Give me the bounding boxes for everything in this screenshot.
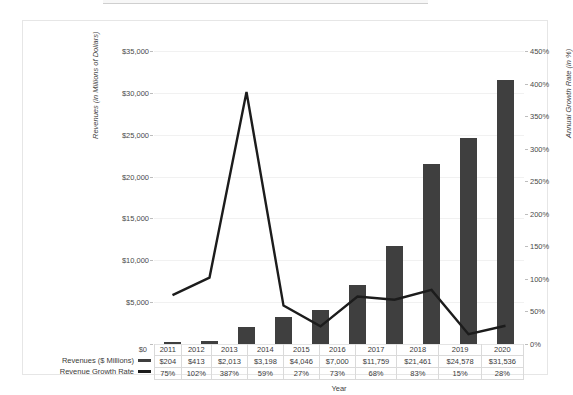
legend-item-revenues: Revenues ($ Millions) xyxy=(45,355,154,366)
table-cell-growth-rate: 68% xyxy=(355,368,396,380)
y-axis-right-tick-mark xyxy=(525,246,528,247)
y-axis-left-tick-label: $10,000 xyxy=(122,256,149,265)
table-cell-revenue: $31,536 xyxy=(481,356,523,368)
table-cell-year: 2011 xyxy=(155,344,182,356)
y-axis-left-tick-label: $25,000 xyxy=(122,130,149,139)
y-axis-right-tick-mark xyxy=(525,149,528,150)
legend-item-growth-rate: Revenue Growth Rate xyxy=(45,366,154,377)
y-axis-left-tick-mark xyxy=(150,177,153,178)
y-axis-left-tick-mark xyxy=(150,135,153,136)
table-cell-revenue: $7,000 xyxy=(319,356,355,368)
bar-swatch-icon xyxy=(138,359,151,363)
y-axis-right-tick-mark xyxy=(525,84,528,85)
y-axis-left-tick-label: $20,000 xyxy=(122,172,149,181)
y-axis-left-tick-mark xyxy=(150,302,153,303)
table-cell-year: 2017 xyxy=(355,344,396,356)
y-axis-right-tick-mark xyxy=(525,51,528,52)
table-cell-year: 2019 xyxy=(439,344,481,356)
table-cell-growth-rate: 75% xyxy=(155,368,182,380)
y-axis-left-title: Revenues (in Millions of Dollars) xyxy=(91,31,100,139)
table-cell-year: 2016 xyxy=(319,344,355,356)
table-cell-growth-rate: 59% xyxy=(247,368,283,380)
y-axis-left-tick-label: $15,000 xyxy=(122,214,149,223)
table-cell-revenue: $204 xyxy=(155,356,182,368)
table-cell-revenue: $24,578 xyxy=(439,356,481,368)
y-axis-right-tick-label: 150% xyxy=(530,242,549,251)
y-axis-right-tick-label: 300% xyxy=(530,144,549,153)
line-swatch-icon xyxy=(138,370,151,373)
y-axis-right-tick-label: 100% xyxy=(530,274,549,283)
y-axis-left-tick-mark xyxy=(150,51,153,52)
line-series-growth-rate xyxy=(154,51,524,344)
y-axis-left-tick-mark xyxy=(150,260,153,261)
table-row-years: 2011201220132014201520162017201820192020 xyxy=(155,344,524,356)
table-row-revenues: $204$413$2,013$3,198$4,046$7,000$11,759$… xyxy=(155,356,524,368)
table-cell-revenue: $21,461 xyxy=(397,356,439,368)
table-cell-growth-rate: 83% xyxy=(397,368,439,380)
table-cell-revenue: $413 xyxy=(181,356,211,368)
table-cell-growth-rate: 73% xyxy=(319,368,355,380)
table-cell-year: 2020 xyxy=(481,344,523,356)
chart-data-table: $0 Revenues ($ Millions) Revenue Growth … xyxy=(45,344,524,380)
chart-container: Revenues (in Millions of Dollars) Annual… xyxy=(22,20,548,375)
y-axis-left-tick-label: $5,000 xyxy=(126,298,149,307)
table-cell-year: 2014 xyxy=(247,344,283,356)
table-cell-growth-rate: 387% xyxy=(211,368,247,380)
table-cell-revenue: $11,759 xyxy=(355,356,396,368)
y-axis-right-tick-mark xyxy=(525,116,528,117)
table-cell-revenue: $2,013 xyxy=(211,356,247,368)
zero-axis-label-row: $0 xyxy=(45,344,154,355)
y-axis-right-title: Annual Growth Rate (in %) xyxy=(564,49,573,138)
legend: $0 Revenues ($ Millions) Revenue Growth … xyxy=(45,344,154,380)
y-axis-right-tick-mark xyxy=(525,214,528,215)
table-cell-revenue: $4,046 xyxy=(283,356,319,368)
y-axis-left-tick-label: $35,000 xyxy=(122,47,149,56)
y-axis-left-tick-mark xyxy=(150,218,153,219)
x-axis-title: Year xyxy=(154,384,524,393)
y-axis-right-tick-label: 400% xyxy=(530,79,549,88)
y-axis-right-tick-label: 450% xyxy=(530,47,549,56)
table-cell-growth-rate: 15% xyxy=(439,368,481,380)
y-axis-right-tick-mark xyxy=(525,344,528,345)
table-cell-growth-rate: 27% xyxy=(283,368,319,380)
table-cell-growth-rate: 28% xyxy=(481,368,523,380)
y-axis-right-tick-mark xyxy=(525,279,528,280)
y-axis-left-tick-label: $30,000 xyxy=(122,88,149,97)
legend-label-revenues: Revenues ($ Millions) xyxy=(62,356,134,365)
table-cell-year: 2015 xyxy=(283,344,319,356)
legend-label-growth-rate: Revenue Growth Rate xyxy=(60,367,134,376)
table-row-growth-rate: 75%102%387%59%27%73%68%83%15%28% xyxy=(155,368,524,380)
y-axis-right-tick-label: 200% xyxy=(530,209,549,218)
y-axis-right-tick-label: 350% xyxy=(530,112,549,121)
table-cell-year: 2012 xyxy=(181,344,211,356)
plot-area: $5,000$10,000$15,000$20,000$25,000$30,00… xyxy=(154,51,524,344)
table-cell-growth-rate: 102% xyxy=(181,368,211,380)
y-axis-right-tick-mark xyxy=(525,181,528,182)
y-axis-right-tick-label: 0% xyxy=(530,340,541,349)
y-axis-right-tick-mark xyxy=(525,311,528,312)
y-axis-right-tick-label: 250% xyxy=(530,177,549,186)
cropped-top-edge xyxy=(103,0,428,4)
y-axis-left-tick-mark xyxy=(150,93,153,94)
data-table: 2011201220132014201520162017201820192020… xyxy=(154,344,524,380)
table-cell-revenue: $3,198 xyxy=(247,356,283,368)
y-axis-right-tick-label: 50% xyxy=(530,307,545,316)
y-axis-zero-label: $0 xyxy=(139,345,151,354)
table-cell-year: 2018 xyxy=(397,344,439,356)
table-cell-year: 2013 xyxy=(211,344,247,356)
